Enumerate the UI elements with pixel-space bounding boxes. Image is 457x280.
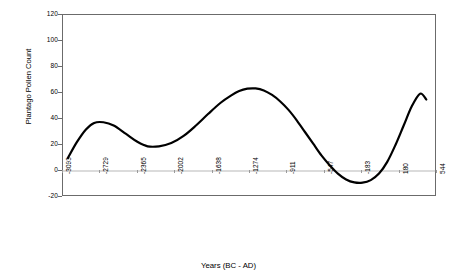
x-tick-label: 180 xyxy=(402,163,409,174)
x-tick-mark xyxy=(324,170,325,173)
x-tick-mark xyxy=(399,170,400,173)
x-tick-mark xyxy=(361,170,362,173)
x-tick-mark xyxy=(137,170,138,173)
x-axis-title: Years (BC - AD) xyxy=(0,261,457,271)
x-axis: -3093-2729-2365-2002-1638-1274-911-547-1… xyxy=(0,196,457,256)
x-tick-label: -2729 xyxy=(102,157,109,174)
x-tick-mark xyxy=(286,170,287,173)
x-tick-label: -2002 xyxy=(177,157,184,174)
x-tick-label: -3093 xyxy=(65,157,72,174)
data-series-line xyxy=(68,88,426,183)
x-tick-mark xyxy=(99,170,100,173)
x-tick-mark xyxy=(436,170,437,173)
plot-area xyxy=(62,14,436,196)
x-tick-mark xyxy=(212,170,213,173)
x-tick-mark xyxy=(62,170,63,173)
x-tick-label: 544 xyxy=(439,163,446,174)
x-tick-label: -183 xyxy=(364,161,371,174)
x-tick-label: -547 xyxy=(327,161,334,174)
y-axis-title: Plantago Pollen Count xyxy=(24,7,33,167)
x-tick-label: -2365 xyxy=(140,157,147,174)
x-tick-label: -1274 xyxy=(252,157,259,174)
x-tick-mark xyxy=(249,170,250,173)
x-tick-label: -1638 xyxy=(215,157,222,174)
chart-container: 120100806040200-20 Plantago Pollen Count… xyxy=(0,0,457,280)
x-tick-label: -911 xyxy=(289,161,296,174)
x-tick-mark xyxy=(174,170,175,173)
y-tick-label: 0 xyxy=(2,166,58,173)
